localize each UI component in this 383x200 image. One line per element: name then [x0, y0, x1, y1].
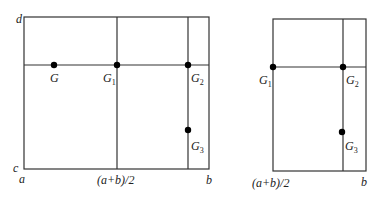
label-b-right: b: [361, 175, 367, 189]
label-G3: G3: [191, 139, 204, 155]
point-G3: [185, 127, 191, 133]
label-G1-right: G1: [259, 73, 272, 89]
point-G: [51, 62, 57, 68]
label-b: b: [206, 173, 212, 187]
label-G2-right: G2: [346, 73, 359, 89]
label-a: a: [19, 172, 25, 186]
point-G1: [114, 62, 120, 68]
label-G3-right: G3: [345, 139, 358, 155]
left-panel: d c a b (a+b)/2 G G1 G2 G3: [13, 12, 212, 187]
right-panel: G1 G2 G3 (a+b)/2 b: [252, 19, 367, 190]
point-G1-right: [270, 64, 276, 70]
label-d: d: [16, 12, 23, 26]
label-G1: G1: [103, 71, 116, 87]
label-midpoint: (a+b)/2: [97, 173, 134, 187]
label-midpoint-right: (a+b)/2: [252, 176, 289, 190]
subdivision-diagram: d c a b (a+b)/2 G G1 G2 G3 G1 G2 G3 (a+b…: [0, 0, 383, 200]
point-G2: [185, 62, 191, 68]
label-G2: G2: [191, 71, 204, 87]
point-G2-right: [340, 64, 346, 70]
label-G: G: [50, 71, 59, 85]
point-G3-right: [339, 129, 345, 135]
